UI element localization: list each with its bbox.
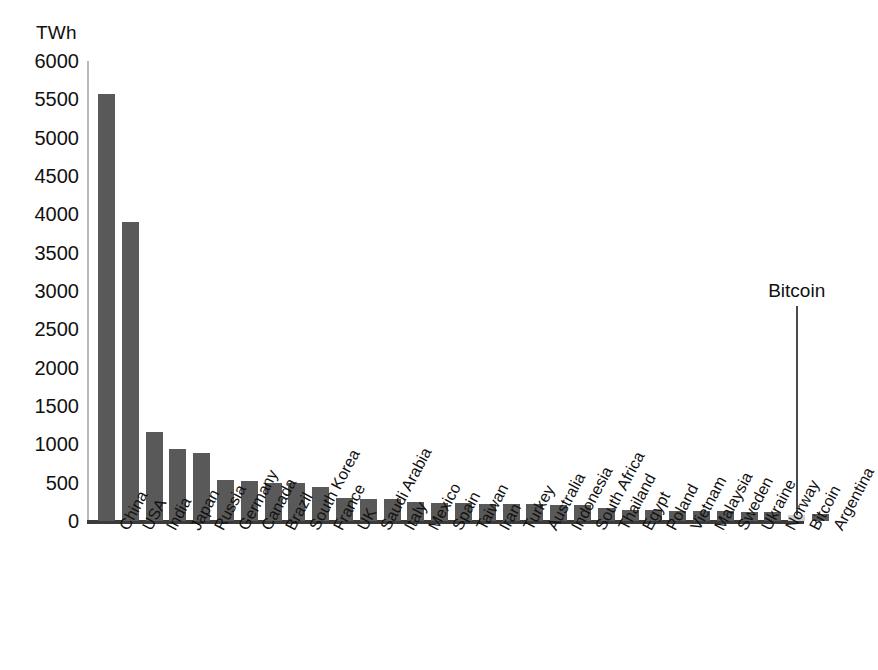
x-label-uk: UK	[354, 525, 370, 533]
x-label-china: China	[116, 525, 132, 533]
x-label-australia: Australia	[544, 525, 560, 533]
x-axis-category-labels: ChinaUSAIndiaJapanRussiaGermanyCanadaBra…	[88, 525, 836, 670]
x-label-japan: Japan	[187, 525, 203, 533]
y-tick-2500: 2500	[35, 318, 80, 341]
y-tick-0: 0	[68, 510, 79, 533]
x-label-italy: Italy	[401, 525, 417, 533]
x-label-argentina: Argentina	[830, 525, 846, 533]
x-label-spain: Spain	[449, 525, 465, 533]
x-label-russia: Russia	[211, 525, 227, 533]
x-label-brazil: Brazil	[282, 525, 298, 533]
y-tick-1000: 1000	[35, 433, 80, 456]
y-tick-1500: 1500	[35, 395, 80, 418]
y-tick-4500: 4500	[35, 165, 80, 188]
x-label-poland: Poland	[663, 525, 679, 533]
x-label-egypt: Egypt	[639, 525, 655, 533]
x-label-canada: Canada	[258, 525, 274, 533]
x-label-south-africa: South Africa	[592, 525, 608, 533]
bar-china[interactable]	[98, 94, 115, 521]
x-label-mexico: Mexico	[425, 525, 441, 533]
bar-series	[88, 61, 816, 521]
x-label-iran: Iran	[496, 525, 512, 533]
x-label-vietnam: Vietnam	[687, 525, 703, 533]
x-label-saudi-arabia: Saudi Arabia	[377, 525, 393, 533]
x-label-thailand: Thailand	[615, 525, 631, 533]
x-label-germany: Germany	[235, 525, 251, 533]
y-tick-3000: 3000	[35, 280, 80, 303]
x-label-usa: USA	[139, 525, 155, 533]
x-label-norway: Norway	[782, 525, 798, 533]
x-label-bitcoin: Bitcoin	[806, 525, 822, 533]
plot-area: 6000550050004500400035003000250020001500…	[88, 61, 816, 521]
x-label-turkey: Turkey	[520, 525, 536, 533]
y-tick-5500: 5500	[35, 88, 80, 111]
y-tick-2000: 2000	[35, 356, 80, 379]
x-label-south-korea: South Korea	[306, 525, 322, 533]
x-label-malaysia: Malaysia	[711, 525, 727, 533]
bar-usa[interactable]	[122, 222, 139, 521]
x-label-france: France	[330, 525, 346, 533]
x-label-taiwan: Taiwan	[473, 525, 489, 533]
x-label-sweden: Sweden	[734, 525, 750, 533]
y-axis-unit-label: TWh	[36, 22, 77, 44]
y-tick-6000: 6000	[35, 50, 80, 73]
x-label-ukraine: Ukraine	[758, 525, 774, 533]
x-label-indonesia: Indonesia	[568, 525, 584, 533]
y-tick-500: 500	[46, 471, 79, 494]
y-tick-4000: 4000	[35, 203, 80, 226]
annotation-label-bitcoin: Bitcoin	[768, 280, 825, 302]
y-tick-5000: 5000	[35, 126, 80, 149]
x-label-india: India	[163, 525, 179, 533]
y-tick-3500: 3500	[35, 241, 80, 264]
